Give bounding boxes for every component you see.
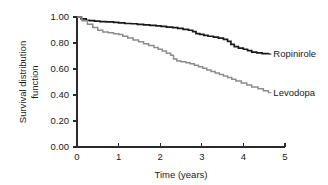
series-label-ropinirole: Ropinirole	[273, 48, 316, 59]
axes-group	[77, 16, 285, 147]
y-tick-labels: 0.000.200.400.600.801.00	[51, 11, 70, 152]
y-tick-label: 0.80	[51, 37, 70, 48]
y-axis-title-line2: function	[29, 65, 40, 98]
tick-marks-group	[73, 17, 285, 147]
chart-canvas: 012345 0.000.200.400.600.801.00 Ropiniro…	[0, 0, 328, 185]
series-curve-ropinirole	[77, 17, 268, 54]
y-tick-label: 1.00	[51, 11, 70, 22]
x-tick-labels: 012345	[74, 151, 287, 162]
x-tick-label: 3	[199, 151, 204, 162]
x-tick-label: 0	[74, 151, 79, 162]
axis-frame	[77, 16, 285, 147]
y-tick-label: 0.40	[51, 89, 70, 100]
series-leader-lines	[268, 54, 271, 93]
y-tick-label: 0.60	[51, 63, 70, 74]
x-tick-label: 2	[158, 151, 163, 162]
x-tick-label: 4	[241, 151, 246, 162]
x-tick-label: 1	[116, 151, 121, 162]
y-tick-label: 0.00	[51, 141, 70, 152]
y-axis-title-line1: Survival distribution	[17, 41, 28, 123]
series-labels-group: RopiniroleLevodopa	[273, 48, 316, 98]
y-tick-label: 0.20	[51, 115, 70, 126]
survival-curve-figure: 012345 0.000.200.400.600.801.00 Ropiniro…	[0, 0, 328, 185]
x-tick-label: 5	[282, 151, 287, 162]
series-curves-group	[77, 17, 268, 93]
x-axis-title: Time (years)	[155, 169, 208, 180]
series-label-levodopa: Levodopa	[273, 87, 315, 98]
